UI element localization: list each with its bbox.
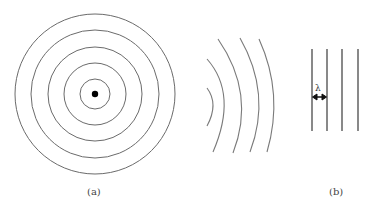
wavelength-label: λ: [315, 83, 321, 93]
arc-3: [218, 39, 242, 153]
caption-panel-b: (b): [329, 186, 343, 197]
curved-wavefronts: [207, 38, 274, 153]
arc-1: [207, 88, 213, 126]
caption-panel-a: (a): [87, 186, 101, 197]
point-source-dot: [92, 91, 98, 97]
arc-4: [240, 38, 259, 152]
arc-2: [207, 59, 224, 152]
arc-5: [259, 39, 274, 152]
wavelength-arrow-icon: [313, 94, 327, 100]
wave-diagram: [0, 0, 372, 207]
